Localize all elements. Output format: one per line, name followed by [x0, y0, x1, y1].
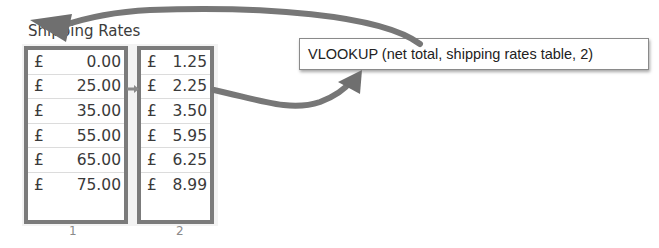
- table-row[interactable]: £8.99: [141, 173, 210, 198]
- currency-symbol: £: [34, 151, 52, 169]
- cell-value: 75.00: [52, 176, 121, 194]
- table-row[interactable]: £3.50: [141, 99, 210, 124]
- arrowhead-icon: [338, 70, 362, 94]
- cell-value: 35.00: [52, 102, 121, 120]
- vlookup-callout: VLOOKUP (net total, shipping rates table…: [299, 38, 649, 70]
- currency-symbol: £: [34, 53, 52, 71]
- table-row[interactable]: £6.25: [141, 148, 210, 173]
- currency-symbol: £: [147, 176, 165, 194]
- currency-symbol: £: [34, 77, 52, 95]
- table-row[interactable]: £1.25: [141, 50, 210, 75]
- cell-value: 2.25: [165, 77, 207, 95]
- currency-symbol: £: [34, 102, 52, 120]
- cell-value: 8.99: [165, 176, 207, 194]
- currency-symbol: £: [147, 77, 165, 95]
- column-index-1: 1: [69, 224, 77, 238]
- cell-value: 0.00: [52, 53, 121, 71]
- table-row[interactable]: £35.00: [28, 99, 124, 124]
- currency-symbol: £: [34, 127, 52, 145]
- table-row[interactable]: £0.00: [28, 50, 124, 75]
- table-row[interactable]: £55.00: [28, 124, 124, 149]
- currency-symbol: £: [147, 102, 165, 120]
- return-value-arrow-icon: [214, 80, 352, 106]
- cell-value: 25.00: [52, 77, 121, 95]
- table-title: Shipping Rates: [28, 22, 140, 40]
- currency-symbol: £: [147, 151, 165, 169]
- table-row[interactable]: £5.95: [141, 124, 210, 149]
- currency-symbol: £: [147, 53, 165, 71]
- lookup-column-1: £0.00 £25.00 £35.00 £55.00 £65.00 £75.00: [24, 46, 128, 224]
- lookup-column-2: £1.25 £2.25 £3.50 £5.95 £6.25 £8.99: [137, 46, 214, 224]
- table-row[interactable]: £65.00: [28, 148, 124, 173]
- cell-value: 1.25: [165, 53, 207, 71]
- cell-value: 65.00: [52, 151, 121, 169]
- currency-symbol: £: [34, 176, 52, 194]
- cell-value: 5.95: [165, 127, 207, 145]
- cell-value: 55.00: [52, 127, 121, 145]
- table-row[interactable]: £75.00: [28, 173, 124, 198]
- table-row[interactable]: £2.25: [141, 75, 210, 100]
- currency-symbol: £: [147, 127, 165, 145]
- column-index-2: 2: [176, 224, 184, 238]
- cell-value: 3.50: [165, 102, 207, 120]
- cell-value: 6.25: [165, 151, 207, 169]
- table-row[interactable]: £25.00: [28, 75, 124, 100]
- row-match-arrow-icon: [127, 85, 139, 93]
- callout-text: VLOOKUP (net total, shipping rates table…: [308, 46, 593, 62]
